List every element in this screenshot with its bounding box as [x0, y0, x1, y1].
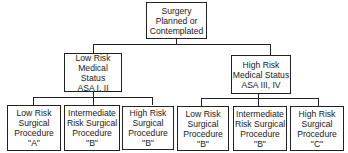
connector-level2-horizontal	[93, 44, 271, 45]
connector-child-4	[201, 98, 202, 106]
node-intermediate-risk-surgical-b-2: Intermediate Risk Surgical Procedure "B"	[233, 106, 287, 151]
connector-child-6	[318, 98, 319, 106]
connector-child-2	[93, 97, 94, 105]
node-high-risk-surgical-c: High Risk Surgical Procedure "C"	[290, 106, 344, 151]
node-high-risk-surgical-b: High Risk Surgical Procedure "B"	[122, 106, 174, 150]
connector-child-3	[152, 97, 153, 105]
connector-child-1	[33, 97, 34, 105]
node-intermediate-risk-surgical-b-1: Intermediate Risk Surgical Procedure "B"	[64, 105, 120, 151]
node-low-risk-surgical-a: Low Risk Surgical Procedure "A"	[7, 105, 61, 151]
node-low-risk-surgical-b: Low Risk Surgical Procedure "B"	[177, 106, 229, 151]
node-low-risk-medical-status: Low Risk Medical Status ASA I, II	[64, 53, 122, 92]
node-high-risk-medical-status: High Risk Medical Status ASA III, IV	[231, 55, 291, 94]
connector-child-5	[258, 98, 259, 106]
root-node-surgery-planned: Surgery Planned or Contemplated	[146, 2, 207, 39]
connector-high-risk-children-horizontal	[201, 98, 319, 99]
connector-high-risk-down	[270, 44, 271, 55]
